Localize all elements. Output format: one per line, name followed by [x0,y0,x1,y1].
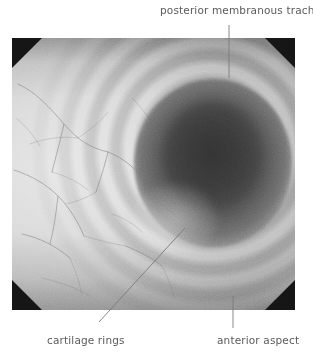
label-anterior-aspect: anterior aspect [217,334,299,347]
endoscopic-image [12,38,295,310]
film-grain [12,38,295,310]
corner-mask-bottom-right [265,280,295,310]
corner-mask-top-left [12,38,42,68]
label-cartilage-rings: cartilage rings [47,334,125,347]
corner-mask-top-right [265,38,295,68]
anatomical-figure: posterior membranous trachea cartilage r… [0,0,313,355]
corner-mask-bottom-left [12,280,42,310]
label-posterior-membranous-trachea: posterior membranous trachea [160,4,313,17]
